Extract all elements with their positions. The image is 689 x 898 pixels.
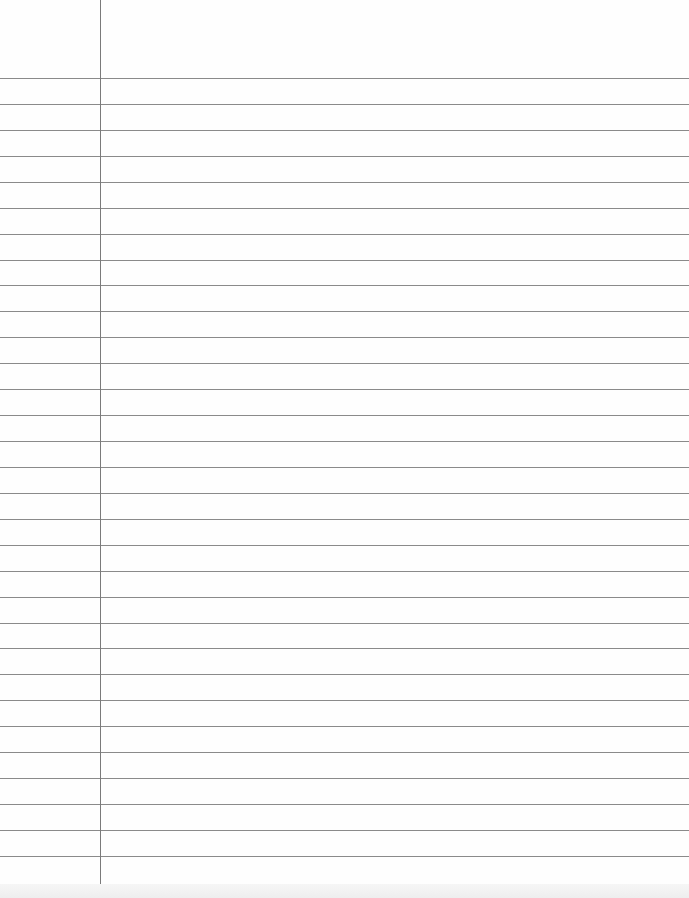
ruled-line — [0, 285, 689, 286]
ruled-line — [0, 597, 689, 598]
ruled-line — [0, 130, 689, 131]
margin-line — [100, 0, 101, 893]
ruled-line — [0, 441, 689, 442]
ruled-line — [0, 856, 689, 857]
ruled-line — [0, 778, 689, 779]
ruled-line — [0, 519, 689, 520]
ruled-line — [0, 752, 689, 753]
ruled-line — [0, 208, 689, 209]
ruled-line — [0, 467, 689, 468]
lined-paper-sheet — [0, 0, 689, 898]
ruled-line — [0, 78, 689, 79]
ruled-line — [0, 545, 689, 546]
ruled-line — [0, 182, 689, 183]
ruled-line — [0, 700, 689, 701]
ruled-line — [0, 804, 689, 805]
scan-edge-shadow — [0, 884, 689, 898]
ruled-line — [0, 234, 689, 235]
ruled-line — [0, 648, 689, 649]
ruled-line — [0, 363, 689, 364]
ruled-line — [0, 571, 689, 572]
ruled-line — [0, 726, 689, 727]
ruled-line — [0, 493, 689, 494]
ruled-line — [0, 415, 689, 416]
ruled-line — [0, 830, 689, 831]
ruled-line — [0, 623, 689, 624]
ruled-line — [0, 156, 689, 157]
ruled-line — [0, 674, 689, 675]
ruled-line — [0, 104, 689, 105]
ruled-line — [0, 389, 689, 390]
ruled-line — [0, 260, 689, 261]
ruled-line — [0, 311, 689, 312]
ruled-line — [0, 337, 689, 338]
